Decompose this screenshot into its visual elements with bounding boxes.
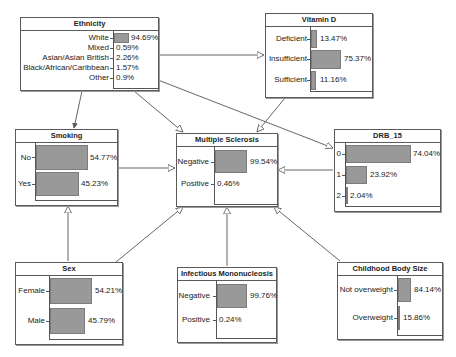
node-childhood-body-size[interactable]: Childhood Body Size Not overweight 84.14…	[337, 262, 443, 340]
state-label: 0	[337, 149, 341, 159]
state-label: Deficient	[276, 34, 307, 44]
state-label: Negative	[178, 291, 210, 301]
state-value: 94.69%	[131, 33, 158, 43]
probability-bar	[346, 187, 348, 204]
state-label: Positive	[182, 315, 210, 325]
node-multiple-sclerosis[interactable]: Multiple Sclerosis Negative 99.54% Posit…	[176, 133, 278, 207]
state-label: Insufficient	[269, 54, 307, 64]
state-value: 1.57%	[116, 63, 139, 73]
state-label: Overweight	[353, 313, 393, 323]
state-value: 0.24%	[219, 315, 242, 325]
state-row[interactable]: White 94.69%	[21, 33, 158, 43]
edge-ethnicity-smoking	[74, 91, 82, 128]
probability-bar	[398, 278, 411, 302]
state-value: 75.37%	[344, 54, 371, 64]
state-value: 2.04%	[350, 191, 373, 201]
node-ethnicity[interactable]: Ethnicity White 94.69% Mixed 0.59% Asian…	[20, 17, 159, 91]
state-value: 99.54%	[250, 157, 277, 167]
state-label: Sufficient	[274, 75, 307, 85]
state-label: Negative	[177, 157, 209, 167]
node-title: Sex	[16, 263, 122, 276]
state-label: Other	[89, 73, 109, 83]
probability-bar	[114, 33, 129, 43]
state-value: 45.23%	[81, 179, 108, 189]
node-title: Multiple Sclerosis	[177, 134, 277, 147]
probability-bar	[36, 145, 88, 170]
probability-bar	[311, 30, 317, 48]
state-label: Mixed	[88, 43, 109, 53]
state-row[interactable]: Negative 99.54%	[177, 150, 277, 173]
node-title: Ethnicity	[21, 18, 158, 31]
state-value: 0.59%	[116, 43, 139, 53]
state-row[interactable]: Black/African/Caribbean 1.57%	[21, 63, 158, 73]
state-value: 54.21%	[95, 286, 122, 296]
state-label: No	[21, 153, 31, 163]
state-label: Positive	[181, 179, 209, 189]
state-value: 74.04%	[413, 149, 440, 159]
state-value: 0.9%	[116, 73, 134, 83]
probability-bar	[311, 50, 341, 69]
state-value: 23.92%	[370, 170, 397, 180]
state-row[interactable]: Insufficient 75.37%	[266, 50, 372, 69]
edge-sex-ms	[116, 207, 183, 262]
node-title: Childhood Body Size	[338, 263, 442, 276]
probability-bar	[398, 306, 400, 330]
state-value: 99.76%	[250, 291, 277, 301]
probability-bar	[36, 172, 79, 196]
state-row[interactable]: No 54.77%	[16, 145, 117, 170]
state-value: 15.86%	[403, 313, 430, 323]
probability-bar	[217, 284, 247, 308]
node-smoking[interactable]: Smoking No 54.77% Yes 45.23%	[15, 129, 118, 206]
state-row[interactable]: Asian/Asian British 2.26%	[21, 53, 158, 63]
state-label: Black/African/Caribbean	[23, 63, 109, 73]
state-value: 54.77%	[90, 153, 117, 163]
state-row[interactable]: 2 2.04%	[335, 187, 440, 204]
node-drb-15[interactable]: DRB_15 0 74.04% 1 23.92% 2 2.04%	[334, 129, 441, 212]
state-row[interactable]: Sufficient 11.16%	[266, 71, 372, 90]
state-row[interactable]: Male 45.79%	[16, 308, 122, 334]
state-value: 45.79%	[88, 316, 115, 326]
state-value: 11.16%	[320, 75, 347, 85]
probability-bar	[311, 71, 316, 90]
state-row[interactable]: Positive 0.24%	[178, 314, 276, 326]
state-value: 0.46%	[217, 179, 240, 189]
state-value: 84.14%	[414, 285, 441, 295]
state-row[interactable]: Yes 45.23%	[16, 172, 117, 196]
state-row[interactable]: Female 54.21%	[16, 278, 122, 304]
edge-vitamind-ms	[257, 98, 285, 132]
node-infectious-mononucleosis[interactable]: Infectious Mononucleosis Negative 99.76%…	[177, 267, 277, 343]
state-value: 13.47%	[320, 34, 347, 44]
node-title: Vitamin D	[266, 14, 372, 27]
state-label: 2	[337, 191, 341, 201]
probability-bar	[50, 308, 85, 334]
state-row[interactable]: Overweight 15.86%	[338, 306, 442, 330]
state-row[interactable]: 0 74.04%	[335, 145, 440, 163]
node-vitamin-d[interactable]: Vitamin D Deficient 13.47% Insufficient …	[265, 13, 373, 98]
state-label: Asian/Asian British	[42, 53, 109, 63]
probability-bar	[346, 166, 367, 184]
state-label: Not overweight	[340, 285, 393, 295]
state-row[interactable]: Mixed 0.59%	[21, 43, 158, 53]
node-title: DRB_15	[335, 130, 440, 143]
edge-ethnicity-ms	[134, 91, 183, 132]
state-row[interactable]: Negative 99.76%	[178, 284, 276, 308]
state-row[interactable]: Other 0.9%	[21, 73, 158, 83]
node-sex[interactable]: Sex Female 54.21% Male 45.79%	[15, 262, 123, 345]
state-row[interactable]: Positive 0.46%	[177, 178, 277, 190]
state-row[interactable]: 1 23.92%	[335, 166, 440, 184]
probability-bar	[346, 145, 411, 163]
state-label: White	[89, 33, 109, 43]
node-title: Infectious Mononucleosis	[178, 268, 276, 281]
probability-bar	[50, 278, 92, 304]
node-title: Smoking	[16, 130, 117, 143]
state-label: Yes	[18, 179, 31, 189]
state-label: Female	[18, 286, 45, 296]
state-value: 2.26%	[116, 53, 139, 63]
edge-cbs-ms	[274, 207, 340, 261]
probability-bar	[215, 150, 247, 173]
state-label: Male	[28, 316, 45, 326]
state-row[interactable]: Not overweight 84.14%	[338, 278, 442, 302]
state-label: 1	[337, 170, 341, 180]
state-row[interactable]: Deficient 13.47%	[266, 30, 372, 48]
